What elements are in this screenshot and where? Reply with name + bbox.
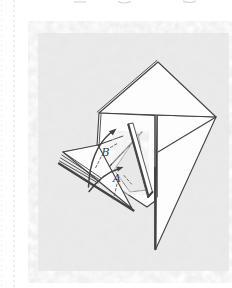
page-edge-marks <box>74 1 196 3</box>
label-b: B <box>101 146 110 159</box>
label-a: A <box>112 172 121 185</box>
scanned-page: B A <box>0 0 232 288</box>
origami-diagram: B A <box>0 0 232 288</box>
